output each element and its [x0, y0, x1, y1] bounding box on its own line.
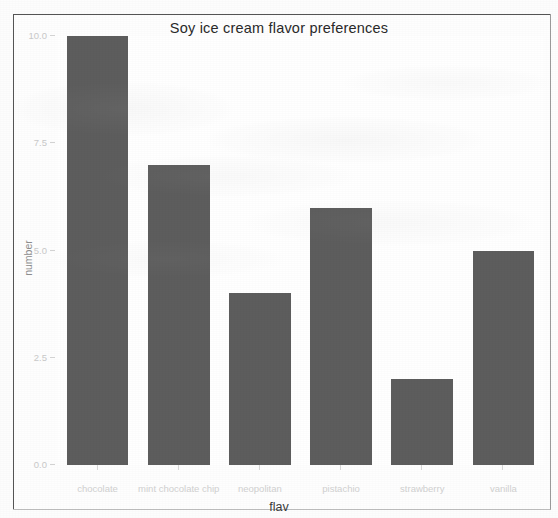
y-axis-tick: 10.0 [0, 30, 57, 42]
bar [67, 36, 129, 465]
x-axis-tick-mark [97, 465, 98, 470]
bar [391, 379, 453, 465]
y-axis-tick-label: 2.5 [34, 352, 47, 364]
y-axis-tick-label: 5.0 [34, 245, 47, 257]
y-axis-tick: 0.0 [0, 459, 57, 471]
bar [473, 251, 535, 466]
y-axis-title: number [22, 228, 34, 288]
chart-title: Soy ice cream flavor preferences [0, 20, 558, 36]
plot-panel [57, 36, 544, 465]
y-axis-tick-mark [50, 142, 55, 143]
y-axis-tick: 7.5 [0, 137, 57, 149]
y-axis-tick-label: 7.5 [34, 137, 47, 149]
x-axis-tick-mark [502, 465, 503, 470]
y-axis-tick-mark [50, 250, 55, 251]
x-axis-tick-mark [421, 465, 422, 470]
x-axis-title: flav [0, 500, 558, 514]
y-axis-tick-mark [50, 464, 55, 465]
y-axis-tick-mark [50, 357, 55, 358]
x-axis-tick-mark [178, 465, 179, 470]
bar-series [57, 36, 544, 465]
y-axis-tick-label: 0.0 [34, 459, 47, 471]
y-axis-tick: 2.5 [0, 352, 57, 364]
bar [148, 165, 210, 465]
x-axis-tick-mark [259, 465, 260, 470]
bar [229, 293, 291, 465]
x-axis-tick-label: vanilla [443, 483, 558, 494]
bar [310, 208, 372, 465]
y-axis-tick-mark [50, 35, 55, 36]
y-axis-tick-label: 10.0 [29, 30, 48, 42]
chart-figure: Soy ice cream flavor preferences number … [0, 0, 558, 518]
y-axis-tick: 5.0 [0, 245, 57, 257]
x-axis-tick-mark [340, 465, 341, 470]
